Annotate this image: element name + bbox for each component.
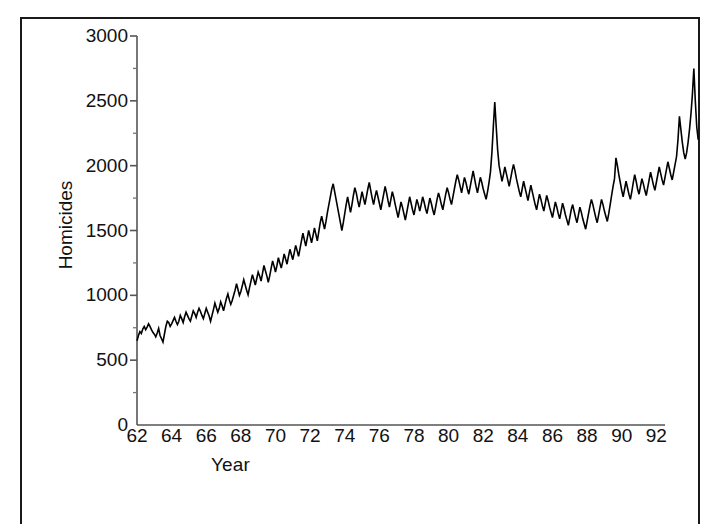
homicides-time-series-chart: Homicides 050010001500200025003000 62646… bbox=[0, 0, 711, 524]
plot-area bbox=[0, 0, 711, 524]
homicides-data-line bbox=[137, 68, 698, 342]
chart-page: Homicides 050010001500200025003000 62646… bbox=[0, 0, 711, 524]
axis-lines bbox=[137, 36, 665, 425]
